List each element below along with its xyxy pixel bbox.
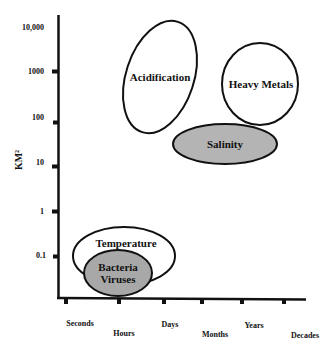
x-label-years: Years	[244, 321, 263, 330]
x-label-seconds: Seconds	[66, 319, 94, 328]
x-label-decades: Decades	[291, 331, 319, 340]
y-label-1000: 1000	[28, 67, 44, 76]
x-label-hours: Hours	[113, 329, 134, 338]
x-label-days: Days	[162, 320, 179, 329]
y-axis-title: KM²	[13, 150, 24, 170]
region-temperature-label: Temperature	[95, 237, 156, 249]
y-tick-1000	[52, 70, 58, 74]
scale-diagram: 10,000 1000 100 10 1 0.1 KM² Seconds Hou…	[0, 0, 335, 354]
y-tick-1	[52, 210, 58, 214]
region-bacteria-label: Bacteria	[98, 261, 138, 273]
x-tick-decades	[282, 299, 286, 304]
x-tick-months	[200, 299, 204, 304]
region-heavy-metals-label: Heavy Metals	[229, 78, 294, 90]
y-tick-0.1	[53, 255, 58, 259]
x-tick-years	[240, 299, 244, 304]
x-tick-seconds	[64, 299, 68, 304]
y-label-10000: 10,000	[22, 23, 44, 32]
y-tick-10	[52, 165, 58, 169]
x-axis	[57, 298, 306, 300]
y-label-10: 10	[36, 158, 44, 167]
x-tick-hours	[117, 299, 121, 304]
y-tick-100	[53, 121, 58, 125]
x-label-months: Months	[202, 330, 228, 339]
region-viruses-label: Viruses	[100, 273, 136, 285]
y-label-1: 1	[40, 207, 44, 216]
x-tick-days	[162, 299, 166, 304]
region-acidification-label: Acidification	[130, 71, 191, 83]
y-label-0.1: 0.1	[36, 251, 46, 260]
y-label-100: 100	[32, 113, 44, 122]
region-salinity-label: Salinity	[207, 138, 244, 150]
